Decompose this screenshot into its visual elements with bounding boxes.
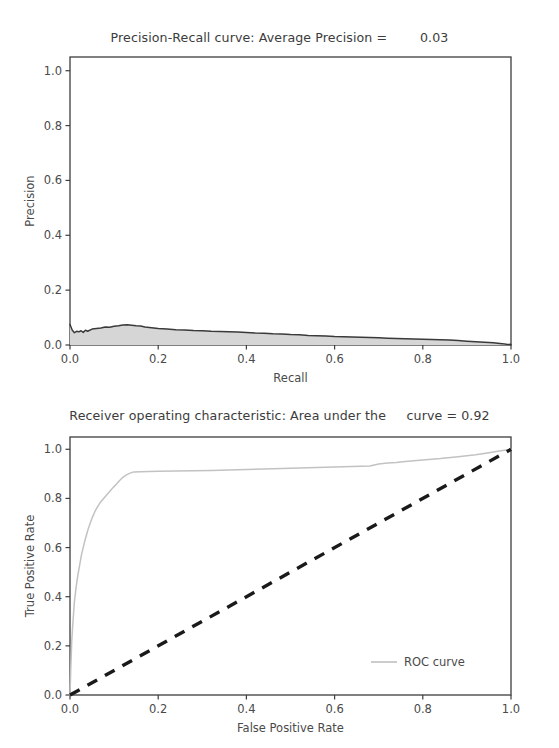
x-tick-label: 0.8	[414, 702, 432, 716]
y-tick-label: 0.2	[44, 283, 62, 297]
x-tick-label: 0.4	[237, 352, 255, 366]
x-axis-label: Recall	[273, 371, 307, 385]
y-axis-label: Precision	[23, 175, 37, 226]
y-tick-label: 0.8	[44, 491, 62, 505]
x-axis-label: False Positive Rate	[237, 721, 344, 735]
precision-recall-panel: Precision-Recall curve: Average Precisio…	[0, 0, 559, 390]
precision-recall-plot: 0.00.20.40.60.81.00.00.20.40.60.81.0Reca…	[0, 0, 559, 390]
y-tick-label: 0.0	[44, 688, 62, 702]
y-axis-label: True Positive Rate	[23, 515, 37, 618]
x-tick-label: 0.2	[149, 352, 167, 366]
x-tick-label: 0.6	[325, 352, 343, 366]
y-tick-label: 0.4	[44, 590, 62, 604]
roc-plot: 0.00.20.40.60.81.00.00.20.40.60.81.0Fals…	[0, 390, 559, 748]
y-tick-label: 1.0	[44, 64, 62, 78]
roc-panel: Receiver operating characteristic: Area …	[0, 390, 559, 748]
x-tick-label: 0.2	[149, 702, 167, 716]
y-tick-label: 0.4	[44, 228, 62, 242]
x-tick-label: 1.0	[502, 352, 520, 366]
x-tick-label: 0.6	[325, 702, 343, 716]
y-tick-label: 0.6	[44, 173, 62, 187]
y-tick-label: 1.0	[44, 442, 62, 456]
figure-container: Precision-Recall curve: Average Precisio…	[0, 0, 559, 748]
y-tick-label: 0.6	[44, 541, 62, 555]
x-tick-label: 0.8	[414, 352, 432, 366]
x-tick-label: 0.0	[61, 352, 79, 366]
x-tick-label: 1.0	[502, 702, 520, 716]
x-tick-label: 0.0	[61, 702, 79, 716]
y-tick-label: 0.0	[44, 338, 62, 352]
x-tick-label: 0.4	[237, 702, 255, 716]
legend-label: ROC curve	[404, 655, 465, 669]
y-tick-label: 0.8	[44, 119, 62, 133]
y-tick-label: 0.2	[44, 639, 62, 653]
axes-frame	[70, 57, 511, 345]
